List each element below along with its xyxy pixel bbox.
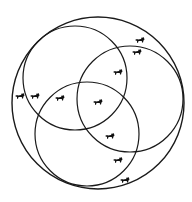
cat-icon bbox=[30, 92, 40, 99]
cat-icon bbox=[120, 176, 130, 183]
venn-diagram bbox=[0, 0, 192, 202]
cat-icon bbox=[135, 36, 145, 43]
cat-icon bbox=[93, 98, 103, 105]
set-c-bottom-circle bbox=[35, 82, 139, 186]
cat-icon bbox=[55, 94, 65, 101]
cat-icon bbox=[113, 68, 123, 75]
cat-icon bbox=[132, 48, 142, 55]
cat-icon bbox=[15, 92, 25, 99]
cat-icon bbox=[105, 132, 115, 139]
cat-icon bbox=[113, 156, 123, 163]
